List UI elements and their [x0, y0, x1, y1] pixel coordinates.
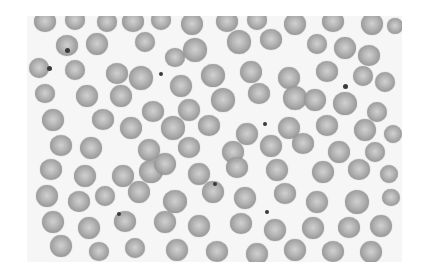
red-blood-cell: [230, 213, 252, 234]
red-blood-cell: [142, 101, 164, 122]
red-blood-cell: [129, 66, 153, 90]
red-blood-cell: [65, 60, 85, 80]
red-blood-cell: [375, 72, 395, 92]
platelet: [213, 182, 217, 186]
red-blood-cell: [358, 45, 380, 66]
red-blood-cell: [183, 38, 207, 62]
red-blood-cell: [211, 88, 235, 112]
red-blood-cell: [260, 135, 282, 157]
red-blood-cell: [89, 242, 109, 261]
red-blood-cell: [312, 161, 334, 183]
red-blood-cell: [338, 217, 360, 238]
red-blood-cell: [65, 16, 85, 30]
red-blood-cell: [125, 238, 145, 258]
blood-smear-image: [27, 16, 402, 262]
red-blood-cell: [68, 191, 90, 212]
red-blood-cell: [226, 157, 248, 178]
red-blood-cell: [165, 48, 185, 67]
red-blood-cell: [135, 32, 155, 52]
red-blood-cell: [201, 64, 225, 87]
red-blood-cell: [322, 16, 344, 32]
red-blood-cell: [353, 66, 373, 86]
red-blood-cell: [306, 191, 328, 213]
red-blood-cell: [170, 75, 192, 97]
red-blood-cell: [333, 92, 357, 115]
red-blood-cell: [86, 33, 108, 55]
red-blood-cell: [264, 219, 286, 241]
red-blood-cell: [246, 243, 268, 262]
red-blood-cell: [274, 183, 296, 204]
red-blood-cell: [227, 30, 251, 54]
red-blood-cell: [42, 211, 64, 233]
red-blood-cell: [120, 117, 142, 139]
red-blood-cell: [316, 61, 338, 82]
red-blood-cell: [40, 159, 62, 180]
red-blood-cell: [367, 102, 387, 122]
red-blood-cell: [76, 85, 98, 107]
red-blood-cell: [387, 18, 402, 34]
red-blood-cell: [334, 37, 356, 59]
red-blood-cell: [292, 133, 314, 154]
red-blood-cell: [236, 123, 258, 145]
red-blood-cell: [345, 190, 369, 214]
red-blood-cell: [95, 186, 115, 206]
red-blood-cell: [302, 217, 324, 239]
red-blood-cell: [304, 89, 326, 111]
red-blood-cell: [248, 83, 270, 104]
platelet: [263, 122, 267, 126]
platelet: [65, 48, 70, 53]
red-blood-cell: [166, 239, 188, 261]
red-blood-cell: [80, 137, 102, 159]
red-blood-cell: [92, 109, 114, 130]
red-blood-cell: [188, 215, 210, 237]
red-blood-cell: [74, 165, 96, 187]
red-blood-cell: [361, 16, 383, 35]
red-blood-cell: [42, 109, 64, 131]
red-blood-cell: [247, 16, 267, 30]
red-blood-cell: [50, 135, 72, 156]
red-blood-cell: [50, 235, 72, 257]
red-blood-cell: [266, 159, 288, 181]
red-blood-cell: [34, 16, 56, 32]
platelet: [159, 72, 163, 76]
red-blood-cell: [163, 190, 187, 213]
platelet: [47, 66, 52, 71]
red-blood-cell: [178, 99, 200, 121]
red-blood-cell: [122, 16, 144, 32]
red-blood-cell: [380, 165, 398, 183]
red-blood-cell: [322, 241, 344, 262]
red-blood-cell: [106, 63, 128, 84]
red-blood-cell: [260, 29, 282, 50]
red-blood-cell: [348, 159, 370, 180]
red-blood-cell: [307, 34, 327, 54]
red-blood-cell: [56, 35, 78, 56]
red-blood-cell: [128, 181, 150, 203]
red-blood-cell: [35, 84, 55, 103]
red-blood-cell: [78, 217, 100, 239]
red-blood-cell: [154, 211, 176, 233]
red-blood-cell: [161, 116, 185, 140]
red-blood-cell: [284, 239, 306, 261]
platelet: [265, 210, 269, 214]
red-blood-cell: [178, 137, 200, 158]
red-blood-cell: [316, 115, 338, 136]
red-blood-cell: [384, 125, 402, 143]
red-blood-cell: [354, 119, 376, 141]
red-blood-cell: [110, 85, 132, 107]
red-blood-cell: [36, 185, 58, 207]
red-blood-cell: [370, 215, 392, 237]
red-blood-cell: [284, 16, 306, 35]
red-blood-cell: [328, 141, 350, 163]
red-blood-cell: [382, 189, 400, 206]
red-blood-cell: [154, 153, 176, 175]
red-blood-cell: [234, 187, 256, 209]
red-blood-cell: [181, 16, 203, 35]
platelet: [117, 212, 121, 216]
red-blood-cell: [151, 16, 171, 30]
red-blood-cell: [240, 61, 262, 83]
red-blood-cell: [198, 115, 220, 136]
platelet: [343, 84, 348, 89]
red-blood-cell: [360, 241, 382, 262]
red-blood-cell: [97, 16, 117, 32]
red-blood-cell: [365, 142, 385, 162]
